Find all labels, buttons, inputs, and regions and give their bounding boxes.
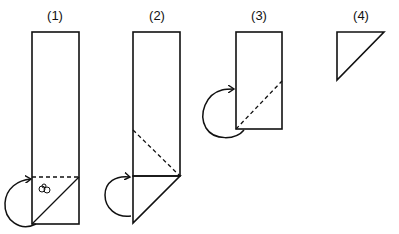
step-2-fold-line: [133, 130, 180, 176]
folding-diagram: [0, 0, 399, 234]
step-3-fold-arrow-icon: [203, 89, 244, 138]
step-2-triangle: [133, 176, 180, 223]
step-2-rectangle: [133, 32, 180, 176]
step-4-triangle: [337, 32, 384, 80]
step-3-figure: [203, 32, 282, 138]
step-1-rectangle: [32, 32, 79, 224]
step-3-fold-line: [236, 81, 282, 129]
step-1-diagonal: [32, 177, 79, 224]
step-4-figure: [337, 32, 384, 80]
step-2-fold-arrow-icon: [105, 177, 131, 217]
step-1-scribble-mark: [39, 184, 50, 193]
step-3-rectangle: [236, 32, 282, 129]
step-2-figure: [105, 32, 180, 223]
step-1-figure: [5, 32, 79, 227]
